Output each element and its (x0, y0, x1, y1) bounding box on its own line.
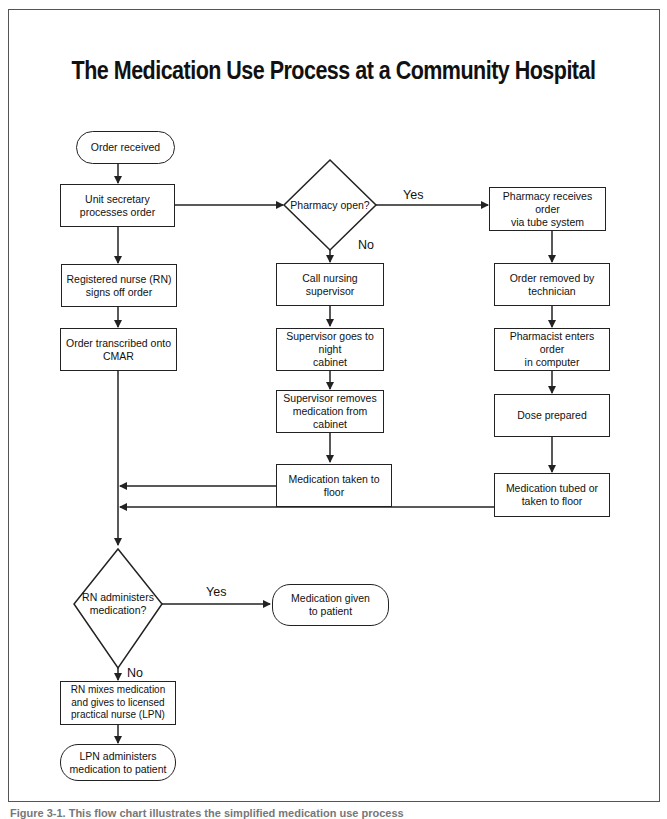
rn-no-label: No (127, 666, 143, 680)
supervisor-goes-step: Supervisor goes to night cabinet (276, 328, 384, 371)
dose-prepared-step: Dose prepared (494, 394, 610, 437)
pharmacy-yes-label: Yes (403, 188, 423, 202)
order-received-terminal: Order received (76, 131, 175, 164)
pharmacy-no-label: No (358, 238, 374, 252)
rn-mixes-step: RN mixes medication and gives to license… (60, 681, 176, 725)
supervisor-removes-step: Supervisor removes medication from cabin… (276, 390, 384, 433)
figure-caption: Figure 3-1. This flow chart illustrates … (10, 807, 404, 819)
unit-secretary-step: Unit secretary processes order (60, 184, 175, 227)
medication-tubed-step: Medication tubed or taken to floor (494, 473, 610, 517)
rn-signs-off-step: Registered nurse (RN) signs off order (61, 264, 177, 307)
rn-administers-question: RN administers medication? (74, 590, 162, 618)
pharmacy-receives-step: Pharmacy receives order via tube system (489, 187, 606, 231)
lpn-administers-terminal: LPN administers medication to patient (60, 744, 176, 781)
medication-taken-floor-step: Medication taken to floor (276, 464, 392, 507)
call-supervisor-step: Call nursing supervisor (276, 263, 384, 306)
pharmacy-open-question: Pharmacy open? (284, 195, 376, 215)
pharmacist-enters-step: Pharmacist enters order in computer (494, 328, 610, 371)
order-removed-step: Order removed by technician (494, 263, 610, 306)
order-transcribed-step: Order transcribed onto CMAR (60, 328, 177, 371)
rn-yes-label: Yes (206, 585, 226, 599)
medication-given-terminal: Medication given to patient (272, 584, 389, 626)
